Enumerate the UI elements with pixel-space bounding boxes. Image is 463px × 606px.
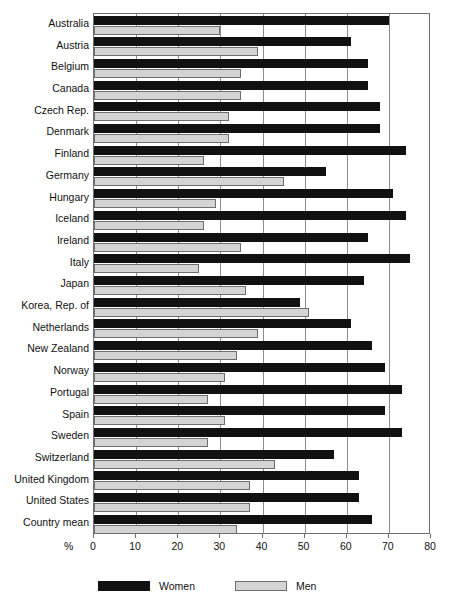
bar-women: [94, 59, 368, 68]
category-label: Spain: [0, 409, 89, 420]
bar-group: [94, 471, 429, 491]
x-tick-mark: [93, 534, 94, 538]
axis-unit-label: %: [64, 540, 73, 552]
bar-group: [94, 298, 429, 318]
category-label: Norway: [0, 365, 89, 376]
x-tick-label: 10: [129, 540, 141, 552]
category-axis-labels: AustraliaAustriaBelgiumCanadaCzech Rep.D…: [0, 13, 89, 534]
bar-group: [94, 146, 429, 166]
bar-group: [94, 428, 429, 448]
bar-group: [94, 515, 429, 535]
bar-women: [94, 233, 368, 242]
bar-men: [94, 481, 250, 490]
category-label: Country mean: [0, 517, 89, 528]
bar-men: [94, 221, 204, 230]
bar-women: [94, 167, 326, 176]
bar-women: [94, 102, 380, 111]
bar-women: [94, 341, 372, 350]
x-tick-mark: [388, 534, 389, 538]
bar-men: [94, 416, 225, 425]
bar-rows: [94, 14, 429, 533]
bar-men: [94, 26, 220, 35]
bar-women: [94, 146, 406, 155]
legend-label: Men: [296, 580, 316, 592]
x-tick-mark: [177, 534, 178, 538]
category-label: Austria: [0, 40, 89, 51]
bar-women: [94, 254, 410, 263]
category-label: Germany: [0, 170, 89, 181]
x-tick-mark: [219, 534, 220, 538]
category-label: Italy: [0, 257, 89, 268]
bar-group: [94, 81, 429, 101]
bar-women: [94, 493, 359, 502]
bar-group: [94, 254, 429, 274]
category-label: United States: [0, 495, 89, 506]
legend-swatch-women: [98, 581, 150, 591]
category-label: Netherlands: [0, 322, 89, 333]
bar-men: [94, 286, 246, 295]
category-label: Belgium: [0, 61, 89, 72]
category-label: New Zealand: [0, 343, 89, 354]
bar-women: [94, 16, 389, 25]
bar-men: [94, 91, 241, 100]
bar-women: [94, 211, 406, 220]
bar-group: [94, 16, 429, 36]
bar-group: [94, 406, 429, 426]
bar-group: [94, 189, 429, 209]
bar-group: [94, 233, 429, 253]
bar-group: [94, 319, 429, 339]
bar-women: [94, 450, 334, 459]
horizontal-bar-chart: AustraliaAustriaBelgiumCanadaCzech Rep.D…: [0, 0, 463, 606]
bar-group: [94, 102, 429, 122]
chart-legend: WomenMen: [98, 580, 316, 592]
x-tick-mark: [430, 534, 431, 538]
bar-men: [94, 351, 237, 360]
bar-men: [94, 177, 284, 186]
bar-men: [94, 243, 241, 252]
legend-item: Women: [98, 580, 195, 592]
category-label: Czech Rep.: [0, 105, 89, 116]
category-label: Denmark: [0, 126, 89, 137]
x-tick-label: 70: [382, 540, 394, 552]
bar-group: [94, 276, 429, 296]
bar-men: [94, 134, 229, 143]
bar-women: [94, 363, 385, 372]
bar-men: [94, 69, 241, 78]
bar-men: [94, 264, 199, 273]
bar-group: [94, 363, 429, 383]
x-tick-mark: [304, 534, 305, 538]
category-label: Sweden: [0, 430, 89, 441]
bar-women: [94, 319, 351, 328]
bar-women: [94, 385, 402, 394]
bar-women: [94, 37, 351, 46]
category-label: Japan: [0, 278, 89, 289]
bar-group: [94, 211, 429, 231]
bar-men: [94, 395, 208, 404]
x-tick-label: 30: [214, 540, 226, 552]
category-label: Switzerland: [0, 452, 89, 463]
category-label: Iceland: [0, 213, 89, 224]
bar-women: [94, 124, 380, 133]
legend-swatch-men: [235, 581, 287, 591]
bar-women: [94, 81, 368, 90]
bar-men: [94, 503, 250, 512]
plot-area: [93, 13, 430, 534]
bar-group: [94, 167, 429, 187]
bar-group: [94, 450, 429, 470]
x-tick-label: 20: [171, 540, 183, 552]
x-tick-mark: [262, 534, 263, 538]
category-label: Ireland: [0, 235, 89, 246]
bar-women: [94, 471, 359, 480]
x-tick-mark: [346, 534, 347, 538]
bar-men: [94, 373, 225, 382]
bar-men: [94, 460, 275, 469]
bar-men: [94, 308, 309, 317]
bar-women: [94, 406, 385, 415]
bar-group: [94, 493, 429, 513]
category-label: Korea, Rep. of: [0, 300, 89, 311]
category-label: United Kingdom: [0, 474, 89, 485]
x-tick-label: 60: [340, 540, 352, 552]
bar-men: [94, 525, 237, 534]
bar-women: [94, 428, 402, 437]
bar-men: [94, 199, 216, 208]
